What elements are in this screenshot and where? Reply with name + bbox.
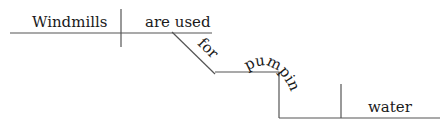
verb-word: are used xyxy=(145,13,211,31)
object-word: water xyxy=(368,98,413,116)
subject-word: Windmills xyxy=(32,13,108,31)
sentence-diagram: Windmills are used for pumping water xyxy=(0,0,440,127)
gerund-stand xyxy=(215,72,279,118)
